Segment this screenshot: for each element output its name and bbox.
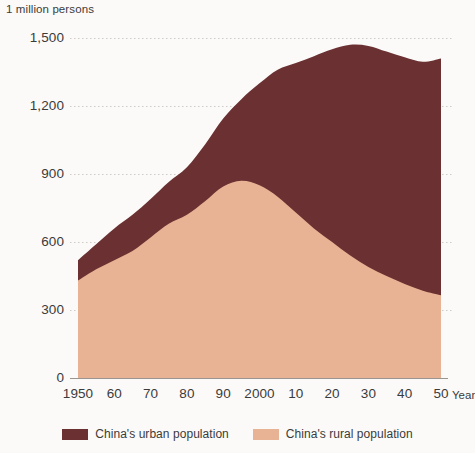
legend-swatch-rural — [253, 429, 279, 440]
legend-item-urban[interactable]: China's urban population — [62, 427, 229, 441]
y-tick-label-600: 600 — [0, 234, 64, 249]
legend-label-rural: China's rural population — [286, 427, 413, 441]
x-axis-name-label: Year — [452, 389, 475, 401]
y-tick-label-300: 300 — [0, 302, 64, 317]
legend-label-urban: China's urban population — [95, 427, 229, 441]
legend-swatch-urban — [62, 429, 88, 440]
chart-legend: China's urban populationChina's rural po… — [0, 427, 475, 441]
y-tick-label-0: 0 — [0, 370, 64, 385]
legend-item-rural[interactable]: China's rural population — [253, 427, 413, 441]
chart-container: 1 million persons 03006009001,2001,500 1… — [0, 0, 475, 453]
y-tick-label-1200: 1,200 — [0, 98, 64, 113]
y-tick-label-900: 900 — [0, 166, 64, 181]
y-tick-label-1500: 1,500 — [0, 30, 64, 45]
